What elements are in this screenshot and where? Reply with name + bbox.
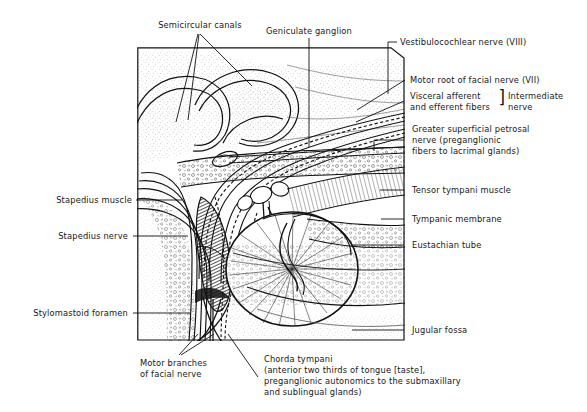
label-visceral-fibers-line1: Visceral afferent xyxy=(410,91,481,102)
label-chorda-tympani-line3: preganglionic autonomics to the submaxil… xyxy=(264,376,461,387)
label-visceral-fibers-line2: and efferent fibers xyxy=(410,102,490,113)
label-motor-branches-line1: Motor branches xyxy=(140,358,207,369)
illustration-svg xyxy=(137,47,405,341)
label-tympanic-membrane: Tympanic membrane xyxy=(412,214,502,225)
label-tensor-tympani-muscle: Tensor tympani muscle xyxy=(412,185,511,196)
label-geniculate-ganglion: Geniculate ganglion xyxy=(258,26,360,37)
anatomical-illustration xyxy=(137,47,405,341)
label-stylomastoid-foramen: Stylomastoid foramen xyxy=(2,308,128,319)
label-greater-petrosal-line2: nerve (preganglionic xyxy=(412,135,501,146)
label-semicircular-canals: Semicircular canals xyxy=(135,20,265,31)
label-greater-petrosal-line3: fibers to lacrimal glands) xyxy=(412,146,519,157)
diagram-root: Semicircular canals Geniculate ganglion … xyxy=(0,0,587,412)
label-vestibulocochlear-nerve: Vestibulocochlear nerve (VIII) xyxy=(400,37,526,48)
label-stapedius-nerve: Stapedius nerve xyxy=(6,231,128,242)
label-jugular-fossa: Jugular fossa xyxy=(412,325,467,336)
intermediate-nerve-bracket: ] xyxy=(498,88,506,107)
label-chorda-tympani-line2: (anterior two thirds of tongue [taste], xyxy=(264,365,425,376)
label-chorda-tympani-line4: and sublingual glands) xyxy=(264,387,362,398)
label-motor-branches-line2: of facial nerve xyxy=(140,369,202,380)
label-chorda-tympani-line1: Chorda tympani xyxy=(264,354,333,365)
label-motor-root-facial-nerve: Motor root of facial nerve (VII) xyxy=(410,75,540,86)
label-intermediate-nerve-line2: nerve xyxy=(508,102,533,113)
label-greater-petrosal-line1: Greater superficial petrosal xyxy=(412,124,530,135)
label-eustachian-tube: Eustachian tube xyxy=(412,240,481,251)
label-stapedius-muscle: Stapedius muscle xyxy=(6,195,132,206)
label-intermediate-nerve-line1: Intermediate xyxy=(508,91,563,102)
